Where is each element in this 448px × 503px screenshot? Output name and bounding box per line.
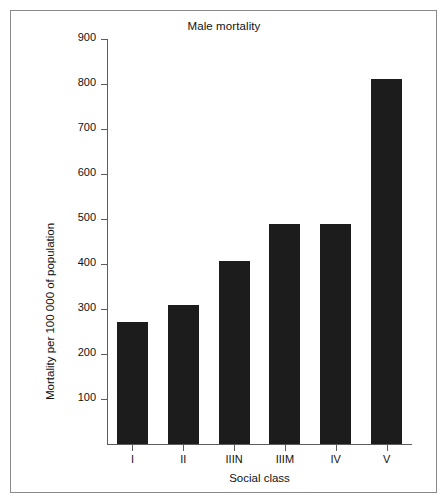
x-axis-tick-label: IIIM	[261, 453, 309, 465]
y-axis-tick-label: 800	[56, 76, 96, 88]
y-axis-tick-label: 700	[56, 121, 96, 133]
y-axis-title: Mortality per 100 000 of population	[44, 223, 56, 400]
y-axis-tick-label: 600	[56, 166, 96, 178]
plot-area: 100200300400500600700800900 IIIIIINIIIMI…	[0, 0, 448, 503]
x-axis-tick-label: IV	[312, 453, 360, 465]
x-axis-title: Social class	[107, 472, 412, 484]
y-axis-tick-label: 900	[56, 31, 96, 43]
y-axis-tick	[101, 399, 107, 400]
x-axis-line	[107, 444, 412, 445]
x-axis-tick-label: I	[108, 453, 156, 465]
x-axis-tick-label: IIIN	[210, 453, 258, 465]
x-axis-tick-label: V	[363, 453, 411, 465]
y-axis-tick	[101, 174, 107, 175]
bar-I	[117, 322, 148, 444]
bar-IIIN	[219, 261, 250, 444]
y-axis-tick-label: 500	[56, 211, 96, 223]
bar-V	[371, 79, 402, 444]
y-axis-tick	[101, 39, 107, 40]
bar-IIIM	[269, 224, 300, 444]
y-axis-tick-label: 100	[56, 391, 96, 403]
bar-IV	[320, 224, 351, 444]
y-axis-tick	[101, 309, 107, 310]
y-axis-tick	[101, 264, 107, 265]
figure-canvas: Male mortality 1002003004005006007008009…	[0, 0, 448, 503]
x-axis-tick	[285, 445, 286, 451]
y-axis-line	[107, 39, 108, 445]
x-axis-tick	[132, 445, 133, 451]
y-axis-tick	[101, 84, 107, 85]
y-axis-tick	[101, 129, 107, 130]
x-axis-tick-label: II	[159, 453, 207, 465]
x-axis-tick	[336, 445, 337, 451]
y-axis-tick	[101, 219, 107, 220]
y-axis-tick-label: 400	[56, 256, 96, 268]
y-axis-tick-label: 300	[56, 301, 96, 313]
y-axis-tick-label: 200	[56, 346, 96, 358]
x-axis-tick	[183, 445, 184, 451]
bar-II	[168, 305, 199, 444]
x-axis-tick	[234, 445, 235, 451]
x-axis-tick	[387, 445, 388, 451]
y-axis-tick	[101, 354, 107, 355]
